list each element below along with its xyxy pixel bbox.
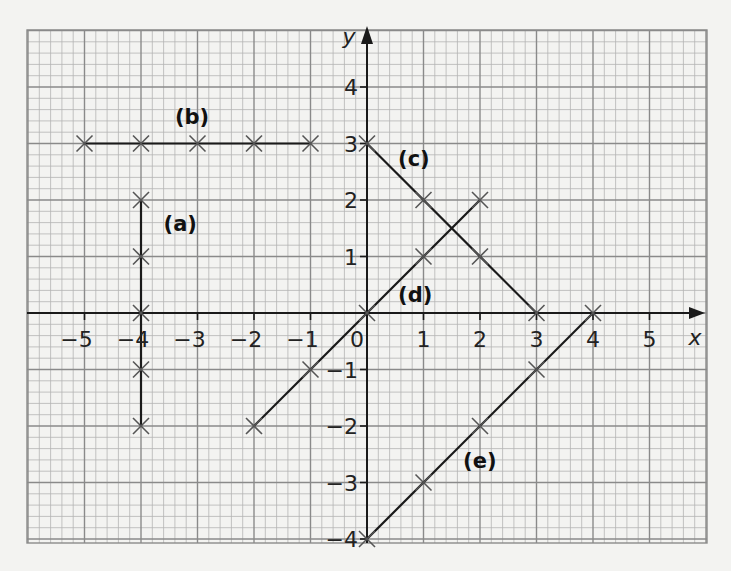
line-label: (e) <box>463 449 496 473</box>
y-tick-label: −1 <box>326 358 358 383</box>
coordinate-graph: (a)(b)(c)(d)(e) −5−4−3−2−1012345−4−3−2−1… <box>0 0 731 571</box>
x-tick-label: −4 <box>117 327 149 352</box>
tick-labels: −5−4−3−2−1012345−4−3−2−11234xy <box>60 24 702 552</box>
x-tick-label: 0 <box>350 327 364 352</box>
x-axis-label: x <box>687 325 702 350</box>
x-tick-label: 2 <box>473 327 487 352</box>
x-tick-label: 5 <box>643 327 657 352</box>
y-tick-label: 4 <box>344 75 358 100</box>
line-label: (b) <box>175 105 209 129</box>
y-axis-arrow-icon <box>361 26 373 44</box>
x-tick-label: −2 <box>230 327 262 352</box>
x-tick-label: −1 <box>286 327 318 352</box>
x-tick-label: −3 <box>173 327 205 352</box>
x-tick-label: −5 <box>60 327 92 352</box>
y-tick-label: 3 <box>344 132 358 157</box>
line-label: (d) <box>398 283 432 307</box>
y-tick-label: −3 <box>326 471 358 496</box>
line-label: (a) <box>164 212 197 236</box>
y-tick-label: 1 <box>344 245 358 270</box>
line-b: (b) <box>77 105 319 152</box>
x-tick-label: 1 <box>417 327 431 352</box>
line-label: (c) <box>398 147 430 171</box>
y-tick-label: 2 <box>344 188 358 213</box>
y-axis-label: y <box>341 24 356 49</box>
x-tick-label: 4 <box>586 327 600 352</box>
y-tick-label: −4 <box>326 527 358 552</box>
x-tick-label: 3 <box>530 327 544 352</box>
x-axis-arrow-icon <box>689 307 705 319</box>
y-tick-label: −2 <box>326 414 358 439</box>
axes <box>27 26 705 543</box>
